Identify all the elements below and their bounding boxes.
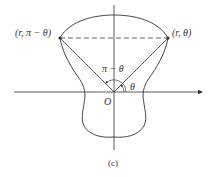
left-point-dot: [58, 36, 61, 39]
angle-complement-label: π − θ: [102, 63, 124, 74]
theta-label: θ: [130, 81, 135, 92]
origin-label: O: [104, 96, 111, 107]
left-point-label: (r, π − θ): [15, 27, 52, 39]
right-point-dot: [166, 36, 169, 39]
polar-symmetry-diagram: (r, π − θ) (r, θ) π − θ θ O (c): [0, 0, 209, 177]
right-point-label: (r, θ): [172, 27, 192, 39]
figure-caption: (c): [108, 158, 118, 168]
angle-theta-arc: [121, 85, 124, 92]
